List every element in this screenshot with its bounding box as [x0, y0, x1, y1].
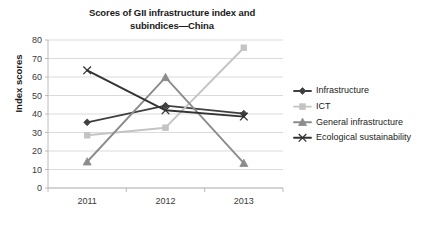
y-tick-label: 0	[37, 183, 42, 193]
data-series	[83, 45, 248, 167]
y-tick-label: 40	[32, 109, 42, 119]
plot-area: 01020304050607080 201120122013 Infrastru…	[0, 0, 424, 228]
y-tick-label: 20	[32, 146, 42, 156]
legend-item-label: Ecological sustainability	[316, 132, 412, 142]
x-tick-label: 2013	[234, 196, 254, 206]
chart-container: Scores of GII infrastructure index and s…	[0, 0, 424, 228]
legend-item-label: ICT	[316, 101, 331, 111]
y-tick-label: 50	[32, 91, 42, 101]
series-path	[87, 77, 244, 163]
y-tick-label: 60	[32, 72, 42, 82]
legend-item-label: General infrastructure	[316, 117, 403, 127]
y-tick-label: 80	[32, 35, 42, 45]
legend-marker-icon	[299, 88, 306, 95]
data-point-marker	[163, 125, 169, 131]
x-tick-label: 2011	[77, 196, 96, 206]
data-point-marker	[83, 67, 91, 75]
legend-item[interactable]: Infrastructure	[294, 85, 369, 95]
data-point-marker	[84, 119, 91, 126]
legend-item[interactable]: General infrastructure	[294, 117, 403, 127]
x-axis-tick-labels: 201120122013	[77, 196, 253, 206]
y-tick-label: 10	[32, 165, 42, 175]
x-tick-label: 2012	[155, 196, 175, 206]
legend-item[interactable]: ICT	[294, 101, 331, 111]
data-point-marker	[84, 132, 90, 138]
legend-marker-icon	[300, 104, 306, 110]
series-line	[83, 73, 248, 166]
series-line	[84, 45, 246, 138]
data-point-marker	[241, 45, 247, 51]
y-axis-tick-labels: 01020304050607080	[32, 35, 42, 193]
series-path	[87, 48, 244, 136]
y-tick-label: 70	[32, 54, 42, 64]
legend: InfrastructureICTGeneral infrastructureE…	[294, 85, 412, 142]
y-tick-label: 30	[32, 128, 42, 138]
legend-item[interactable]: Ecological sustainability	[294, 132, 412, 142]
legend-item-label: Infrastructure	[316, 85, 369, 95]
